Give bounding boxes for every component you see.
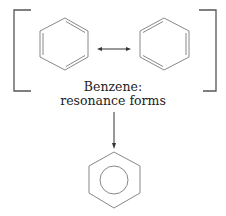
benzene-resonance-diagram (0, 0, 226, 216)
kekule-structure-1 (40, 18, 88, 70)
hybrid-arrow (112, 112, 116, 149)
resonance-arrow (97, 47, 131, 51)
kekule-structure-2 (140, 18, 189, 70)
caption-line-2: resonance forms (0, 94, 226, 107)
right-bracket (199, 10, 216, 91)
caption-line-1: Benzene: (0, 80, 226, 93)
resonance-hybrid (89, 152, 140, 208)
left-bracket (14, 10, 31, 91)
